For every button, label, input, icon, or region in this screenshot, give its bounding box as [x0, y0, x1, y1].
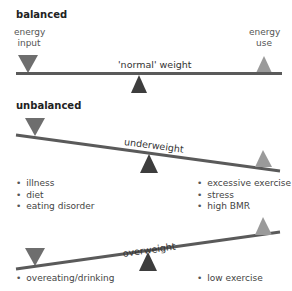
overweight-left-causes: overeating/drinking	[16, 273, 114, 285]
energy-use-triangle-icon	[256, 56, 272, 73]
underweight-input-triangle-icon	[25, 118, 45, 136]
underweight-right-causes: excessive exercise stress high BMR	[197, 178, 291, 213]
balanced-fulcrum-icon	[131, 75, 147, 93]
energy-use-label: energy use	[249, 27, 279, 49]
cause-item: diet	[16, 190, 95, 202]
cause-item: high BMR	[197, 201, 291, 213]
energy-input-label-line1: energy	[14, 27, 44, 38]
underweight-use-triangle-icon	[255, 150, 272, 167]
unbalanced-heading: unbalanced	[16, 100, 81, 111]
normal-weight-label: 'normal' weight	[118, 59, 192, 70]
underweight-fulcrum-icon	[140, 154, 158, 173]
cause-item: excessive exercise	[197, 178, 291, 190]
overweight-input-triangle-icon	[25, 248, 45, 266]
energy-use-label-line1: energy	[249, 27, 279, 38]
cause-item: overeating/drinking	[16, 273, 114, 285]
energy-use-label-line2: use	[249, 38, 279, 49]
overweight-right-causes: low exercise	[197, 273, 263, 285]
cause-item: stress	[197, 190, 291, 202]
overweight-use-triangle-icon	[255, 217, 272, 235]
cause-item: low exercise	[197, 273, 263, 285]
cause-item: illness	[16, 178, 95, 190]
balanced-heading: balanced	[16, 9, 67, 20]
energy-input-label: energy input	[14, 27, 44, 49]
underweight-left-causes: illness diet eating disorder	[16, 178, 95, 213]
balanced-beam	[16, 72, 282, 75]
energy-input-label-line2: input	[14, 38, 44, 49]
cause-item: eating disorder	[16, 201, 95, 213]
energy-input-triangle-icon	[18, 55, 38, 73]
